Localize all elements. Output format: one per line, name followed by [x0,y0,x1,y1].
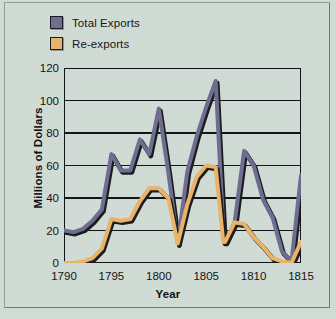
x-axis-title: Year [0,288,336,300]
chart-svg [64,68,301,263]
y-tick-60: 60 [46,160,59,172]
y-tick-20: 20 [46,225,59,237]
y-tick-80: 80 [46,127,59,139]
x-tick-1795: 1795 [99,270,125,282]
x-tick-1790: 1790 [51,270,77,282]
y-axis-title: Millions of Dollars [32,73,44,243]
y-tick-0: 0 [53,257,59,269]
x-tick-1800: 1800 [146,270,172,282]
legend-item-total-exports: Total Exports [50,13,140,32]
x-tick-1815: 1815 [288,270,314,282]
plot-area: 020406080100120 179017951800180518101815 [64,68,301,263]
chart-screenshot: Total Exports Re-exports Millions of Dol… [0,0,336,319]
legend-swatch-re-exports [50,37,63,50]
x-tick-1805: 1805 [193,270,219,282]
y-tick-40: 40 [46,192,59,204]
x-tick-1810: 1810 [241,270,267,282]
legend-label-total-exports: Total Exports [72,17,140,29]
chart-legend: Total Exports Re-exports [50,13,140,55]
legend-label-re-exports: Re-exports [72,38,129,50]
legend-item-re-exports: Re-exports [50,34,140,53]
data-series-layer [64,81,301,263]
legend-swatch-total-exports [50,16,63,29]
